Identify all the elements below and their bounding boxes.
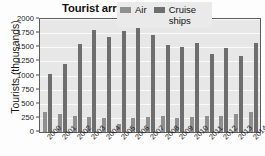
y-axis-tick-label: 0 — [30, 127, 34, 136]
bar-cruise-ships-2012 — [224, 48, 228, 132]
legend-label: Air — [135, 4, 147, 15]
bar-air-2000 — [43, 112, 47, 132]
y-axis-tick-label: 1750 — [17, 28, 34, 37]
bar-cruise-ships-2013 — [239, 56, 243, 132]
bar-cruise-ships-2011 — [210, 54, 214, 132]
bar-cruise-ships-2006 — [136, 24, 140, 132]
bar-cruise-ships-2009 — [180, 47, 184, 132]
legend-entry-cruise-ships[interactable]: Cruise ships — [154, 4, 209, 26]
chart-figure: Tourist arrivals, 2000–2014 Tourists (th… — [0, 0, 265, 156]
bar-cruise-ships-2003 — [92, 30, 96, 132]
y-axis-tick-label: 250 — [21, 112, 34, 121]
legend-label: Cruise ships — [169, 4, 209, 26]
bar-cruise-ships-2005 — [122, 31, 126, 132]
bar-cruise-ships-2004 — [107, 37, 111, 132]
y-axis-tick-label: 750 — [21, 84, 34, 93]
legend-swatch-icon — [120, 7, 131, 13]
y-axis-tick-label: 1500 — [17, 42, 34, 51]
x-axis-tick-labels: 2000200120022003200420052006200720082009… — [39, 133, 261, 156]
bar-cruise-ships-2007 — [151, 35, 155, 132]
legend-swatch-icon — [154, 7, 165, 13]
bar-cruise-ships-2000 — [48, 74, 52, 132]
bar-cruise-ships-2014 — [254, 43, 258, 132]
plot-area — [39, 18, 261, 133]
chart-legend: AirCruise ships — [117, 2, 212, 28]
bar-cruise-ships-2002 — [78, 44, 82, 132]
legend-entry-air[interactable]: Air — [120, 4, 147, 15]
gridline — [40, 33, 260, 34]
y-axis-tick-label: 1000 — [17, 70, 34, 79]
y-axis-tick-label: 1250 — [17, 56, 34, 65]
bar-cruise-ships-2001 — [63, 64, 67, 132]
bar-cruise-ships-2008 — [166, 45, 170, 132]
y-axis-tick-labels: 025050075010001250150017502000 — [0, 14, 36, 138]
bar-cruise-ships-2010 — [195, 43, 199, 132]
y-axis-tick-label: 2000 — [17, 14, 34, 23]
y-axis-tick-label: 500 — [21, 98, 34, 107]
